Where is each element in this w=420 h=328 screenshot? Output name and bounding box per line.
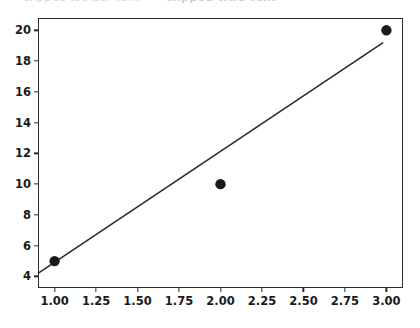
x-tick-mark [178, 288, 179, 292]
x-tick-label: 2.50 [289, 294, 317, 308]
y-tick-label: 20 [15, 23, 31, 37]
y-tick-mark [34, 214, 38, 215]
y-tick-mark [34, 30, 38, 31]
y-tick-mark [34, 245, 38, 246]
y-tick-label: 16 [15, 85, 31, 99]
clipped-top-text-strip: — clipped toolbar text — — clipped title… [0, 0, 420, 9]
y-tick-mark [34, 122, 38, 123]
y-tick-label: 10 [15, 177, 31, 191]
clipped-right-text: — clipped title text — [150, 0, 292, 4]
x-axis-tick-labels: 1.001.251.501.752.002.252.502.753.00 [0, 294, 420, 312]
y-tick-label: 8 [23, 208, 31, 222]
y-tick-mark [34, 60, 38, 61]
x-tick-label: 1.25 [82, 294, 110, 308]
y-tick-mark [34, 91, 38, 92]
x-tick-label: 3.00 [372, 294, 400, 308]
y-tick-mark [34, 153, 38, 154]
x-tick-label: 2.25 [248, 294, 276, 308]
y-tick-label: 6 [23, 239, 31, 253]
x-tick-label: 2.75 [331, 294, 359, 308]
y-tick-label: 12 [15, 146, 31, 160]
x-tick-mark [261, 288, 262, 292]
y-tick-mark [34, 276, 38, 277]
x-tick-label: 1.75 [165, 294, 193, 308]
x-tick-label: 1.00 [40, 294, 68, 308]
matplotlib-figure: — clipped toolbar text — — clipped title… [0, 0, 420, 328]
x-tick-mark [344, 288, 345, 292]
y-axis-tick-labels: 468101214161820 [0, 0, 31, 328]
y-tick-label: 18 [15, 54, 31, 68]
x-tick-mark [95, 288, 96, 292]
y-tick-label: 14 [15, 116, 31, 130]
x-tick-label: 2.00 [206, 294, 234, 308]
data-point-marker [381, 25, 391, 35]
x-tick-mark [137, 288, 138, 292]
y-tick-mark [34, 183, 38, 184]
y-tick-label: 4 [23, 269, 31, 283]
x-tick-mark [220, 288, 221, 292]
x-tick-mark [54, 288, 55, 292]
data-point-marker [215, 179, 225, 189]
plot-canvas [38, 18, 403, 288]
fit-line [38, 43, 383, 274]
x-tick-mark [386, 288, 387, 292]
x-tick-label: 1.50 [123, 294, 151, 308]
data-point-marker [49, 256, 59, 266]
x-tick-mark [303, 288, 304, 292]
